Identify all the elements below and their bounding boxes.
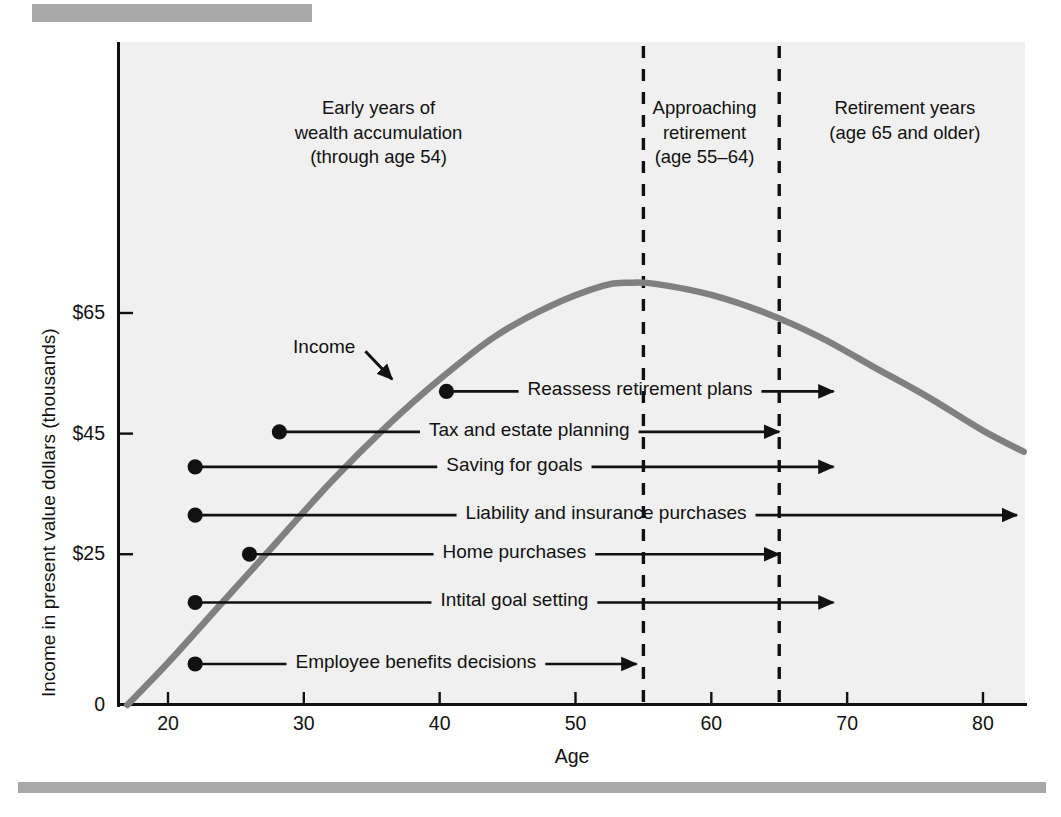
curve-annotation-arrows: [365, 351, 392, 379]
income-curve: [127, 283, 1023, 705]
task-arrows: [188, 384, 1017, 672]
figure-root: Income in present value dollars (thousan…: [0, 0, 1061, 817]
chart-vector-overlay: [0, 0, 1061, 817]
tick-marks: [119, 313, 983, 705]
zone-divider-lines: [643, 46, 779, 703]
